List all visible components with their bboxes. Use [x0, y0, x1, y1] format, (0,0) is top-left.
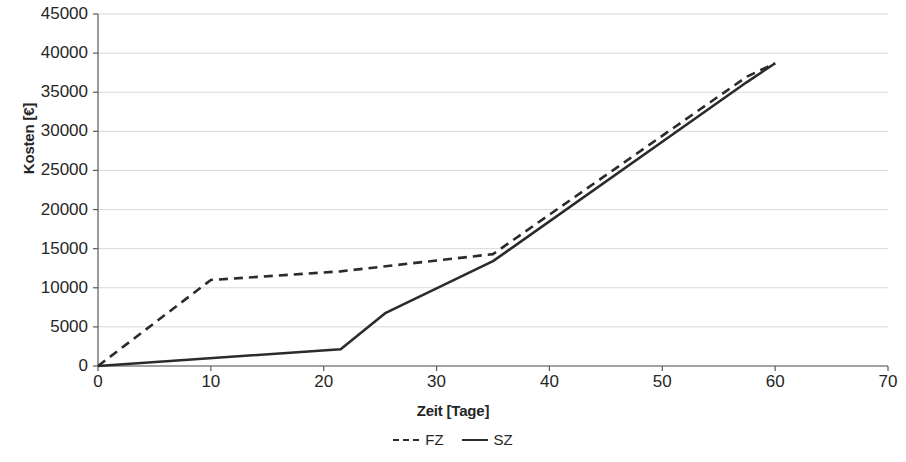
data-series — [98, 63, 775, 366]
legend-item-sz[interactable]: SZ — [462, 432, 513, 447]
line-chart: Kosten [€] 05000100001500020000250003000… — [0, 0, 906, 462]
x-tick-label: 40 — [519, 372, 579, 392]
x-tick-label: 60 — [745, 372, 805, 392]
x-tick-label: 30 — [407, 372, 467, 392]
x-tick-label: 70 — [858, 372, 906, 392]
x-tick-label: 10 — [181, 372, 241, 392]
legend-item-fz[interactable]: FZ — [393, 432, 443, 447]
legend-swatch-solid-icon — [462, 439, 488, 441]
series-line-fz — [98, 63, 775, 366]
series-line-sz — [98, 63, 775, 366]
legend-swatch-dashed-icon — [393, 439, 419, 441]
x-tick-label: 0 — [68, 372, 128, 392]
legend-label: FZ — [425, 432, 443, 447]
x-axis-tick-labels: 010203040506070 — [0, 372, 906, 398]
x-tick-label: 50 — [632, 372, 692, 392]
x-tick-label: 20 — [294, 372, 354, 392]
legend-label: SZ — [494, 432, 513, 447]
x-axis-title: Zeit [Tage] — [0, 402, 906, 419]
chart-legend: FZSZ — [0, 432, 906, 447]
